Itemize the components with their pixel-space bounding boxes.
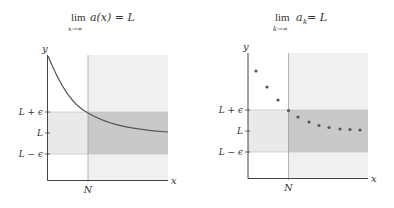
right-x-label: x [371,173,377,184]
right-title-sub: k→∞ [273,25,288,33]
sequence-point [254,69,257,72]
sequence-point [348,128,351,131]
left-tick-upper-label: L + ϵ [18,107,43,117]
left-tick-lower-label: L − ϵ [18,149,43,159]
right-tick-upper-label: L + ϵ [218,105,243,115]
left-title-sub: x→∞ [68,25,83,33]
sequence-point [338,127,341,130]
sequence-point [307,120,310,123]
sequence-point [296,115,299,118]
right-title-a: a [296,11,303,24]
left-overlap-region [88,112,168,154]
sequence-point [358,128,361,131]
right-tick-mid-label: L [236,126,243,136]
right-title-rest: = L [307,11,327,24]
right-overlap-region [288,110,368,152]
sequence-point [287,109,290,112]
right-title-lim: lim [275,11,290,23]
left-tick-mid-label: L [36,128,43,138]
sequence-point [317,124,320,127]
right-y-label: y [242,41,249,52]
right-n-label: N [283,182,293,193]
limit-diagrams: lim x→∞ a(x) = L y x L + ϵ L L − ϵ N l [0,0,394,208]
left-n-label: N [83,184,93,195]
sequence-point [327,126,330,129]
left-title-lim: lim [71,11,86,23]
left-y-label: y [41,43,48,54]
sequence-point [265,85,268,88]
left-plot: lim x→∞ a(x) = L y x L + ϵ L L − ϵ N [18,11,177,195]
right-tick-lower-label: L − ϵ [218,147,243,157]
left-x-label: x [171,175,177,186]
left-title-expr: a(x) = L [90,11,135,24]
sequence-point [276,98,279,101]
right-plot: lim k→∞ a k = L [218,11,377,193]
